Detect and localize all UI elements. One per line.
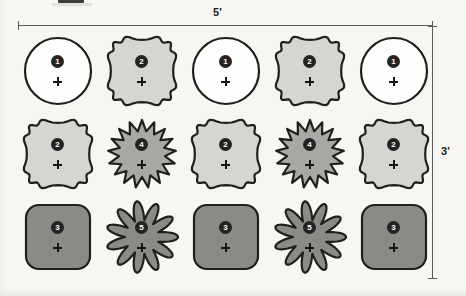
- plant-cell[interactable]: 2: [102, 29, 181, 112]
- plant-symbol-scallop[interactable]: 2: [103, 32, 181, 110]
- plant-cell[interactable]: 4: [270, 112, 349, 195]
- plant-outline-circle-icon: [187, 32, 265, 110]
- plant-cell[interactable]: 1: [18, 29, 97, 112]
- plant-row: 12121: [18, 29, 433, 112]
- plant-cell[interactable]: 3: [186, 195, 265, 278]
- plant-cell[interactable]: 2: [186, 112, 265, 195]
- cropped-title-artifact-shadow: [52, 3, 92, 6]
- plant-row: 24242: [18, 112, 433, 195]
- plant-grid: 121212424235353: [18, 29, 433, 279]
- plant-symbol-starburst[interactable]: 4: [103, 115, 181, 193]
- plant-symbol-rounded-square[interactable]: 3: [355, 198, 433, 276]
- plant-symbol-circle[interactable]: 1: [19, 32, 97, 110]
- plant-outline-scallop-icon: [355, 115, 433, 193]
- plant-outline-rounded-square-icon: [187, 198, 265, 276]
- plant-symbol-circle[interactable]: 1: [187, 32, 265, 110]
- plant-cell[interactable]: 5: [270, 195, 349, 278]
- plant-cell[interactable]: 2: [18, 112, 97, 195]
- plant-symbol-rounded-square[interactable]: 3: [19, 198, 97, 276]
- plant-symbol-circle[interactable]: 1: [355, 32, 433, 110]
- plant-outline-scallop-icon: [187, 115, 265, 193]
- plant-symbol-scallop[interactable]: 2: [355, 115, 433, 193]
- plant-outline-starburst-icon: [271, 115, 349, 193]
- plant-outline-flower-icon: [271, 198, 349, 276]
- height-dimension-label: 3': [441, 145, 450, 157]
- plant-cell[interactable]: 1: [186, 29, 265, 112]
- plant-row: 35353: [18, 195, 433, 278]
- plant-outline-scallop-icon: [19, 115, 97, 193]
- plant-cell[interactable]: 3: [18, 195, 97, 278]
- plant-symbol-flower[interactable]: 5: [271, 198, 349, 276]
- plant-symbol-starburst[interactable]: 4: [271, 115, 349, 193]
- plant-cell[interactable]: 2: [354, 112, 433, 195]
- plant-outline-flower-icon: [103, 198, 181, 276]
- plant-outline-scallop-icon: [271, 32, 349, 110]
- plant-outline-rounded-square-icon: [355, 198, 433, 276]
- plant-symbol-scallop[interactable]: 2: [271, 32, 349, 110]
- width-dimension-label: 5': [213, 6, 222, 18]
- plant-cell[interactable]: 4: [102, 112, 181, 195]
- planting-plan-diagram: 5' 3' 121212424235353: [0, 0, 466, 296]
- plant-outline-rounded-square-icon: [19, 198, 97, 276]
- plant-symbol-scallop[interactable]: 2: [187, 115, 265, 193]
- plant-symbol-scallop[interactable]: 2: [19, 115, 97, 193]
- plant-cell[interactable]: 5: [102, 195, 181, 278]
- paper-edge-bottom: [0, 289, 466, 296]
- plant-outline-circle-icon: [19, 32, 97, 110]
- paper-edge-left: [0, 0, 8, 296]
- plant-symbol-rounded-square[interactable]: 3: [187, 198, 265, 276]
- plant-cell[interactable]: 1: [354, 29, 433, 112]
- plant-outline-circle-icon: [355, 32, 433, 110]
- plant-outline-starburst-icon: [103, 115, 181, 193]
- plant-cell[interactable]: 3: [354, 195, 433, 278]
- width-dimension-line: [18, 25, 433, 26]
- plant-outline-scallop-icon: [103, 32, 181, 110]
- plant-symbol-flower[interactable]: 5: [103, 198, 181, 276]
- plant-cell[interactable]: 2: [270, 29, 349, 112]
